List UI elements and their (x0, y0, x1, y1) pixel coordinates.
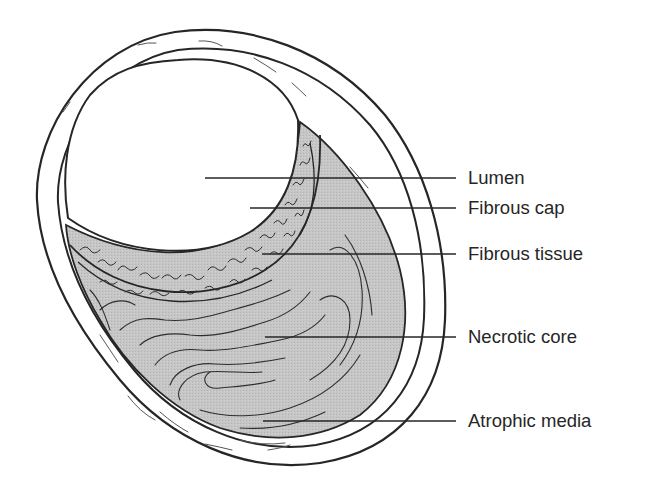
label-atrophic-media: Atrophic media (468, 412, 591, 431)
label-fibrous-cap: Fibrous cap (468, 199, 565, 218)
lumen (65, 59, 298, 250)
label-fibrous-tissue: Fibrous tissue (468, 245, 583, 264)
label-lumen: Lumen (468, 169, 525, 188)
label-necrotic-core: Necrotic core (468, 328, 577, 347)
